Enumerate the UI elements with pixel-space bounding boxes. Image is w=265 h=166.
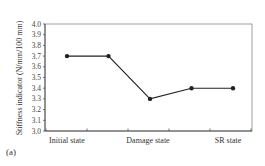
x-category-label: SR state [215, 136, 242, 145]
stiffness-line-chart: 3.03.13.23.33.43.53.63.73.83.94.0 Initia… [0, 0, 265, 166]
y-axis-title: Stiffness indicator (N/mm/100 mm) [15, 20, 24, 135]
y-tick-label: 3.4 [32, 84, 42, 93]
plot-border [45, 24, 252, 131]
x-category-label: Initial state [49, 136, 85, 145]
y-tick-label: 3.2 [32, 105, 42, 114]
y-tick-label: 3.0 [32, 127, 42, 136]
plot-frame [45, 24, 252, 131]
data-series [65, 54, 235, 101]
y-tick-label: 3.3 [32, 94, 42, 103]
y-tick-label: 3.5 [32, 73, 42, 82]
data-point-marker [106, 54, 110, 58]
y-tick-label: 3.6 [32, 62, 42, 71]
y-tick-label: 3.9 [32, 30, 42, 39]
panel-label: (a) [6, 147, 16, 157]
data-point-marker [231, 86, 235, 90]
y-tick-label: 3.7 [32, 52, 42, 61]
x-category-label: Damage state [126, 136, 170, 145]
y-tick-label: 4.0 [32, 20, 42, 29]
series-line [67, 56, 233, 99]
y-tick-label: 3.8 [32, 41, 42, 50]
data-point-marker [148, 97, 152, 101]
y-tick-label: 3.1 [32, 116, 42, 125]
data-point-marker [65, 54, 69, 58]
y-axis-ticks: 3.03.13.23.33.43.53.63.73.83.94.0 [32, 20, 45, 136]
data-point-marker [189, 86, 193, 90]
